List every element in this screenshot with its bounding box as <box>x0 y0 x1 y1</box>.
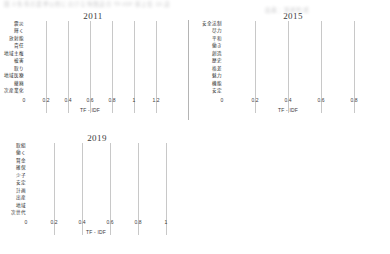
x-axis-tick-label: 1 <box>133 97 136 103</box>
bar-category-label: 輝く <box>0 29 27 34</box>
bar-category-label: 安全法制 <box>196 22 225 27</box>
bar-category-label: 計画 <box>0 189 29 194</box>
x-axis-tick-label: 0.2 <box>51 219 58 225</box>
chart-title-2019: 2019 <box>0 133 194 143</box>
x-axis-tick-label: 0.4 <box>65 97 72 103</box>
x-axis-title: TF - IDF <box>24 107 156 113</box>
x-axis-tick-label: 0.6 <box>107 219 114 225</box>
chart-title-2011: 2011 <box>0 11 186 21</box>
bar-row: 撤廃 <box>0 81 186 87</box>
bar-category-label: 格差 <box>196 67 225 72</box>
x-axis-tick-label: 0.6 <box>87 97 94 103</box>
x-axis: 00.20.40.60.8 <box>222 96 354 107</box>
bar-row: 創造 <box>196 51 390 57</box>
bar-row: 地域 <box>0 203 194 209</box>
bar-category-label: 責任 <box>0 44 27 49</box>
plot-area-2019: 取組働く賢金確保少子安定計画出産地域次世代00.20.40.60.81TF - … <box>0 143 194 235</box>
bar-row: 格差 <box>196 66 390 72</box>
bar-category-label: 地域主権 <box>0 52 27 57</box>
bar-row: 取組 <box>0 143 194 149</box>
bar-category-label: 地域 <box>0 204 29 209</box>
bar-row: 働き <box>196 43 390 49</box>
bar-row: 少子 <box>0 173 194 179</box>
bar-category-label: 安定 <box>196 89 225 94</box>
bar-category-label: 放射能 <box>0 37 27 42</box>
chart-title-2015: 2015 <box>196 11 390 21</box>
bar-row: 安全法制 <box>196 21 390 27</box>
bar-row: 働く <box>0 150 194 156</box>
x-axis: 00.20.40.60.811.2 <box>24 96 156 107</box>
bar-row: 取り <box>0 66 186 72</box>
bar-category-label: 震災 <box>0 22 27 27</box>
bar-category-label: 取り <box>0 67 27 72</box>
bar-rows: 取組働く賢金確保少子安定計画出産地域次世代 <box>0 143 194 217</box>
bar-category-label: 魅力 <box>196 74 225 79</box>
plot-area-2011: 震災輝く放射能責任地域主権被害取り地域医療撤廃次産業化00.20.40.60.8… <box>0 21 186 113</box>
x-axis-tick-label: 0.6 <box>318 97 325 103</box>
x-axis: 00.20.40.60.81 <box>26 218 166 229</box>
bar-category-label: 取組 <box>0 144 29 149</box>
bar-row: 次世代 <box>0 210 194 216</box>
bar-row: 安定 <box>0 180 194 186</box>
bar-category-label: 尽力 <box>196 29 225 34</box>
bar-category-label: 被害 <box>0 59 27 64</box>
bar-row: 平和 <box>196 36 390 42</box>
bar-row: 尽力 <box>196 28 390 34</box>
bar-category-label: 機能 <box>196 82 225 87</box>
bar-row: 震災 <box>0 21 186 27</box>
bar-category-label: 平和 <box>196 37 225 42</box>
caption-line-1: 図 3 各年の選挙公約における特徴語の TF-IDF 値上位 10 語 <box>4 0 170 8</box>
bar-row: 計画 <box>0 188 194 194</box>
x-axis-tick-label: 0 <box>25 219 28 225</box>
bar-row: 出産 <box>0 195 194 201</box>
plot-area-2015: 安全法制尽力平和働き創造歴史格差魅力機能安定00.20.40.60.8TF - … <box>196 21 390 113</box>
bar-row: 輝く <box>0 28 186 34</box>
x-axis-tick-label: 0.8 <box>109 97 116 103</box>
x-axis-tick-label: 0 <box>221 97 224 103</box>
x-axis-tick-label: 0.2 <box>43 97 50 103</box>
bar-rows: 安全法制尽力平和働き創造歴史格差魅力機能安定 <box>196 21 390 95</box>
bar-row: 機能 <box>196 81 390 87</box>
x-axis-tick-label: 0 <box>23 97 26 103</box>
bar-category-label: 働き <box>196 44 225 49</box>
bar-category-label: 次産業化 <box>0 89 27 94</box>
bar-category-label: 出産 <box>0 196 29 201</box>
chart-panel-2015: 2015 安全法制尽力平和働き創造歴史格差魅力機能安定00.20.40.60.8… <box>196 11 390 128</box>
x-axis-tick-label: 0.4 <box>79 219 86 225</box>
chart-panel-2019: 2019 取組働く賢金確保少子安定計画出産地域次世代00.20.40.60.81… <box>0 133 194 254</box>
bar-category-label: 賢金 <box>0 159 29 164</box>
bar-row: 責任 <box>0 43 186 49</box>
bar-category-label: 創造 <box>196 52 225 57</box>
bar-row: 魅力 <box>196 73 390 79</box>
panel-divider-vertical <box>188 20 189 120</box>
bar-category-label: 撤廃 <box>0 82 27 87</box>
bar-category-label: 少子 <box>0 174 29 179</box>
x-axis-tick-label: 1 <box>165 219 168 225</box>
bar-category-label: 働く <box>0 151 29 156</box>
bar-row: 確保 <box>0 165 194 171</box>
bar-row: 安定 <box>196 88 390 94</box>
bar-row: 地域主権 <box>0 51 186 57</box>
x-axis-tick-label: 0.4 <box>285 97 292 103</box>
bar-row: 地域医療 <box>0 73 186 79</box>
bar-category-label: 次世代 <box>0 211 29 216</box>
bar-category-label: 確保 <box>0 166 29 171</box>
x-axis-tick-label: 0.8 <box>351 97 358 103</box>
bar-row: 次産業化 <box>0 88 186 94</box>
x-axis-tick-label: 0.2 <box>252 97 259 103</box>
x-axis-title: TF - IDF <box>222 107 354 113</box>
bar-row: 歴史 <box>196 58 390 64</box>
bar-row: 放射能 <box>0 36 186 42</box>
chart-panel-2011: 2011 震災輝く放射能責任地域主権被害取り地域医療撤廃次産業化00.20.40… <box>0 11 186 128</box>
bar-category-label: 安定 <box>0 181 29 186</box>
bar-category-label: 歴史 <box>196 59 225 64</box>
bar-row: 賢金 <box>0 158 194 164</box>
bar-rows: 震災輝く放射能責任地域主権被害取り地域医療撤廃次産業化 <box>0 21 186 95</box>
bar-row: 被害 <box>0 58 186 64</box>
x-axis-title: TF - IDF <box>26 229 166 235</box>
x-axis-tick-label: 1.2 <box>153 97 160 103</box>
bar-category-label: 地域医療 <box>0 74 27 79</box>
x-axis-tick-label: 0.8 <box>135 219 142 225</box>
